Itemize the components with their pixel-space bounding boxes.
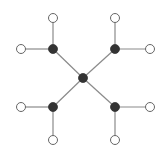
filled-node-center bbox=[79, 74, 88, 83]
filled-node-tr bbox=[111, 45, 120, 54]
open-node-br-bottom bbox=[111, 136, 120, 145]
edge-center-tl bbox=[53, 49, 83, 78]
open-node-tr-right bbox=[146, 45, 155, 54]
tree-diagram bbox=[0, 0, 168, 153]
edge-center-bl bbox=[53, 78, 83, 107]
edge-center-br bbox=[83, 78, 115, 107]
open-node-tl-top bbox=[49, 14, 58, 23]
edge-center-tr bbox=[83, 49, 115, 78]
filled-node-br bbox=[111, 103, 120, 112]
filled-node-tl bbox=[49, 45, 58, 54]
open-node-tr-top bbox=[111, 14, 120, 23]
open-node-br-right bbox=[146, 103, 155, 112]
nodes bbox=[17, 14, 155, 145]
open-node-bl-bottom bbox=[49, 136, 58, 145]
open-node-tl-left bbox=[17, 45, 26, 54]
open-node-bl-left bbox=[17, 103, 26, 112]
filled-node-bl bbox=[49, 103, 58, 112]
